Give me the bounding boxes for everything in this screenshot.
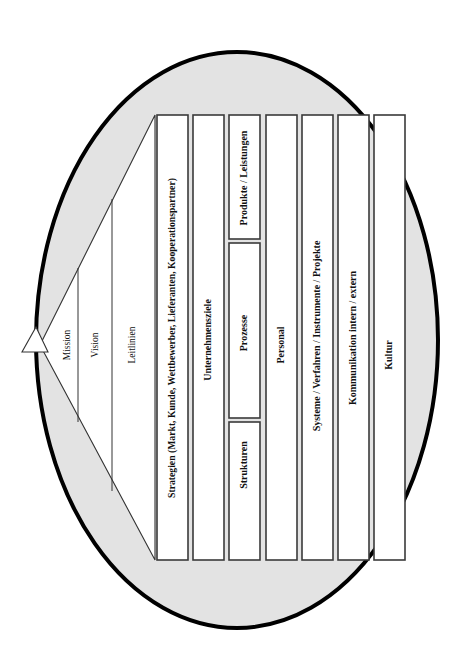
subbox-prozesse[interactable] — [229, 243, 260, 418]
column-box-systeme[interactable] — [302, 115, 333, 560]
column-box-personal[interactable] — [266, 115, 297, 560]
column-box-kommunikation[interactable] — [338, 115, 369, 560]
column-box-strategien[interactable] — [157, 115, 188, 560]
diagram-canvas: Mission Vision Leitlinien Strategien (Ma… — [0, 0, 475, 667]
organisation-model-diagram — [0, 0, 475, 667]
subbox-strukturen[interactable] — [229, 422, 260, 560]
column-box-unternehmensziele[interactable] — [193, 115, 224, 560]
subbox-produkte-leistungen[interactable] — [229, 115, 260, 239]
column-box-kultur[interactable] — [374, 115, 405, 560]
